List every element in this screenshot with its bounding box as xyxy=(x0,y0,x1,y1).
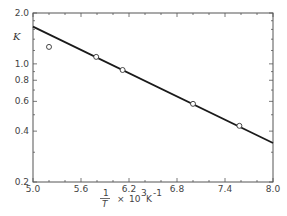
x-tick-label: 7.4 xyxy=(218,184,233,194)
x-label-unit-exponent: -1 xyxy=(153,188,162,198)
y-tick-label: 0.6 xyxy=(15,96,30,106)
data-point xyxy=(237,123,242,128)
y-axis-label: K xyxy=(12,31,21,42)
y-tick-label: 1.0 xyxy=(15,59,30,69)
data-point xyxy=(120,67,125,72)
y-tick-label: 0.4 xyxy=(15,126,30,136)
plot-frame xyxy=(33,13,273,182)
x-tick-label: 8.0 xyxy=(266,184,281,194)
x-label-denominator: T xyxy=(102,199,109,209)
data-points xyxy=(47,44,242,128)
x-label-unit: K xyxy=(146,194,153,204)
x-label-times: × xyxy=(117,194,125,204)
x-tick-label: 5.0 xyxy=(26,184,41,194)
x-label-numerator: 1 xyxy=(103,188,109,198)
data-point xyxy=(47,44,52,49)
data-point xyxy=(94,54,99,59)
y-tick-label: 2.0 xyxy=(15,8,30,18)
x-label-base: 10 xyxy=(129,194,141,204)
x-tick-label: 5.6 xyxy=(74,184,89,194)
x-tick-label: 6.8 xyxy=(170,184,185,194)
chart: 2.01.00.80.60.40.2 5.05.66.26.87.48.0 K … xyxy=(0,0,287,216)
plot-border xyxy=(33,13,273,182)
y-tick-label: 0.8 xyxy=(15,75,30,85)
ticks xyxy=(33,13,273,182)
x-tick-label: 6.2 xyxy=(122,184,136,194)
data-point xyxy=(191,101,196,106)
